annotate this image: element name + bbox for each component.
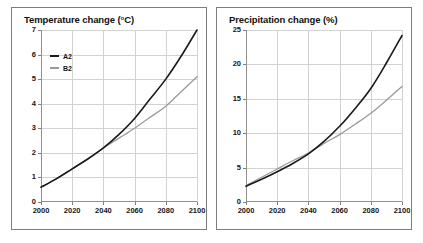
- y-tick-label: 10: [233, 129, 241, 137]
- x-tick-mark: [72, 202, 73, 205]
- x-tick-mark: [277, 202, 278, 205]
- x-tick-label: 2060: [126, 207, 143, 215]
- x-tick-mark: [340, 202, 341, 205]
- figure-two-panel-climate-projection: Temperature change (°C) 0123456720002020…: [0, 0, 423, 243]
- legend-item-a2: A2: [50, 52, 72, 60]
- plot-inner-precipitation: 0510152025200020202040206020802100: [246, 30, 402, 202]
- x-tick-mark: [135, 202, 136, 205]
- x-tick-mark: [246, 202, 247, 205]
- x-tick-mark: [371, 202, 372, 205]
- y-tick-label: 25: [233, 26, 241, 34]
- legend-label-a2: A2: [63, 53, 72, 60]
- y-tick-label: 5: [32, 75, 36, 83]
- x-tick-label: 2020: [64, 207, 81, 215]
- y-tick-label: 5: [237, 164, 241, 172]
- gridline-vertical: [197, 30, 198, 202]
- x-tick-mark: [197, 202, 198, 205]
- series-lines: [246, 30, 402, 202]
- y-tick-label: 3: [32, 125, 36, 133]
- x-tick-mark: [402, 202, 403, 205]
- y-tick-label: 1: [32, 174, 36, 182]
- x-tick-label: 2100: [189, 207, 206, 215]
- chart-title-temperature: Temperature change (°C): [24, 14, 134, 25]
- chart-panel-precipitation: Precipitation change (%) 051015202520002…: [216, 7, 412, 230]
- legend-item-b2: B2: [50, 64, 72, 72]
- y-tick-label: 6: [32, 51, 36, 59]
- y-tick-label: 2: [32, 149, 36, 157]
- legend-label-b2: B2: [63, 65, 72, 72]
- x-tick-label: 2060: [331, 207, 348, 215]
- x-tick-label: 2100: [394, 207, 411, 215]
- gridline-vertical: [402, 30, 403, 202]
- y-tick-label: 4: [32, 100, 36, 108]
- y-tick-label: 0: [237, 198, 241, 206]
- y-tick-label: 15: [233, 95, 241, 103]
- y-tick-label: 20: [233, 61, 241, 69]
- x-tick-mark: [103, 202, 104, 205]
- chart-title-precipitation: Precipitation change (%): [229, 14, 337, 25]
- y-tick-label: 7: [32, 26, 36, 34]
- legend-temperature: A2 B2: [50, 52, 72, 72]
- series-line-b2: [41, 77, 197, 188]
- x-tick-label: 2040: [95, 207, 112, 215]
- x-tick-label: 2020: [269, 207, 286, 215]
- x-tick-label: 2000: [238, 207, 255, 215]
- x-tick-mark: [41, 202, 42, 205]
- chart-panel-temperature: Temperature change (°C) 0123456720002020…: [11, 7, 207, 230]
- x-tick-label: 2080: [362, 207, 379, 215]
- x-tick-label: 2080: [157, 207, 174, 215]
- y-tick-label: 0: [32, 198, 36, 206]
- plot-area-precipitation: 0510152025200020202040206020802100: [246, 30, 402, 202]
- x-tick-mark: [166, 202, 167, 205]
- legend-swatch-a2: [50, 55, 59, 57]
- series-line-a2: [246, 36, 402, 187]
- x-tick-label: 2040: [300, 207, 317, 215]
- legend-swatch-b2: [50, 67, 59, 69]
- series-line-b2: [246, 86, 402, 185]
- x-tick-label: 2000: [33, 207, 50, 215]
- x-tick-mark: [308, 202, 309, 205]
